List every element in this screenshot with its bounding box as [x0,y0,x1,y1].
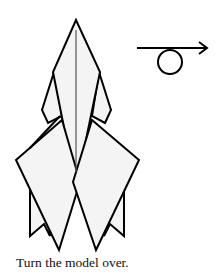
turn-over-arrow-icon [137,42,207,74]
step-caption: Turn the model over. [16,255,129,271]
origami-diagram [0,0,221,277]
